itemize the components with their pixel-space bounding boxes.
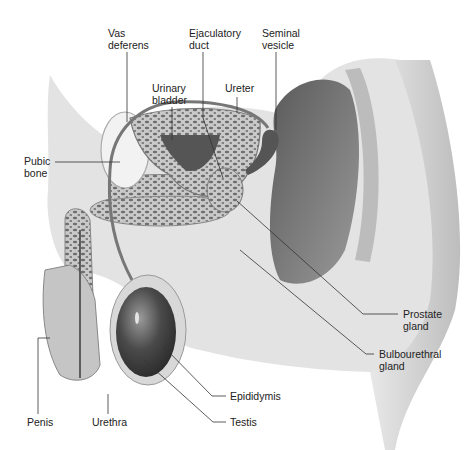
label-bulbourethral-gland: Bulbourethral gland bbox=[379, 348, 441, 372]
label-prostate-gland: Prostate gland bbox=[403, 308, 442, 332]
label-pubic-bone: Pubic bone bbox=[24, 155, 50, 179]
label-urethra: Urethra bbox=[92, 416, 127, 428]
anatomy-illustration bbox=[0, 0, 464, 450]
label-urinary-bladder: Urinary bladder bbox=[152, 82, 187, 106]
label-ureter: Ureter bbox=[225, 82, 254, 94]
label-epididymis: Epididymis bbox=[230, 390, 281, 402]
label-vas-deferens: Vas deferens bbox=[108, 27, 149, 51]
scrotum-shape bbox=[110, 275, 186, 385]
label-penis: Penis bbox=[27, 416, 53, 428]
label-seminal-vesicle: Seminal vesicle bbox=[262, 27, 300, 51]
label-ejaculatory-duct: Ejaculatory duct bbox=[189, 27, 241, 51]
prostate-shape bbox=[207, 168, 243, 212]
label-testis: Testis bbox=[230, 416, 257, 428]
